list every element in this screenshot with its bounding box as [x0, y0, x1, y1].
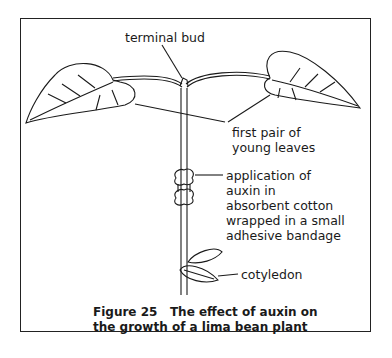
auxin-label-line1: application of — [226, 168, 311, 183]
young-leaves-leader-right — [228, 95, 270, 122]
auxin-label-line5: adhesive bandage — [226, 228, 341, 243]
young-leaves-leader-left — [135, 104, 225, 122]
auxin-label-line3: absorbent cotton — [226, 198, 333, 213]
terminal-bud-label: terminal bud — [125, 30, 205, 45]
caption-line2: the growth of a lima bean plant — [93, 320, 318, 335]
cotyledon-label: cotyledon — [241, 267, 303, 282]
terminal-bud-icon — [180, 78, 188, 86]
left-leaf — [26, 64, 135, 123]
stem — [181, 88, 187, 295]
figure-caption: Figure 25 The effect of auxin on the gro… — [93, 305, 318, 335]
right-petiole-inner — [186, 72, 270, 84]
right-leaf — [265, 51, 360, 108]
auxin-cotton-bandage — [175, 169, 194, 205]
cotyledons — [180, 249, 222, 282]
auxin-label-line4: wrapped in a small — [226, 213, 345, 228]
terminal-bud-leader — [162, 45, 182, 78]
young-leaves-label-line1: first pair of — [232, 125, 301, 140]
cotyledon-leader — [218, 274, 238, 276]
young-leaves-label-line2: young leaves — [232, 140, 315, 155]
auxin-label-line2: auxin in — [226, 183, 276, 198]
caption-line1: Figure 25 The effect of auxin on — [93, 305, 318, 320]
